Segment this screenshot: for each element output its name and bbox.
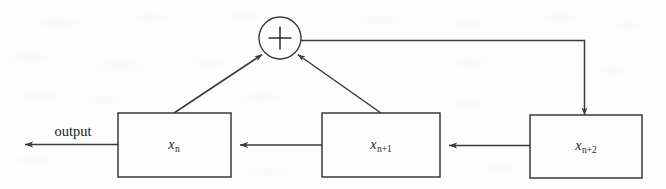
- arrow-xn1-to-adder: [298, 55, 381, 114]
- block-label-xn-plus-1: xn+1: [370, 137, 392, 154]
- diagram-vector-layer: [0, 0, 666, 189]
- block-label-xn-plus-1-subscript: n+1: [377, 143, 392, 153]
- block-label-xn-plus-2-subscript: n+2: [582, 144, 597, 154]
- block-label-xn-subscript: n: [175, 143, 180, 153]
- block-label-xn-plus-2-base: x: [575, 138, 581, 153]
- block-diagram-canvas: xn xn+1 xn+2 output: [0, 0, 666, 189]
- arrow-xn-to-adder: [174, 55, 262, 114]
- block-label-xn-plus-2: xn+2: [575, 138, 597, 155]
- feedback-path-adder-to-xn2: [301, 41, 585, 116]
- block-label-xn-base: x: [168, 137, 174, 152]
- output-label: output: [54, 123, 91, 140]
- block-label-xn: xn: [168, 137, 180, 154]
- block-label-xn-plus-1-base: x: [370, 137, 376, 152]
